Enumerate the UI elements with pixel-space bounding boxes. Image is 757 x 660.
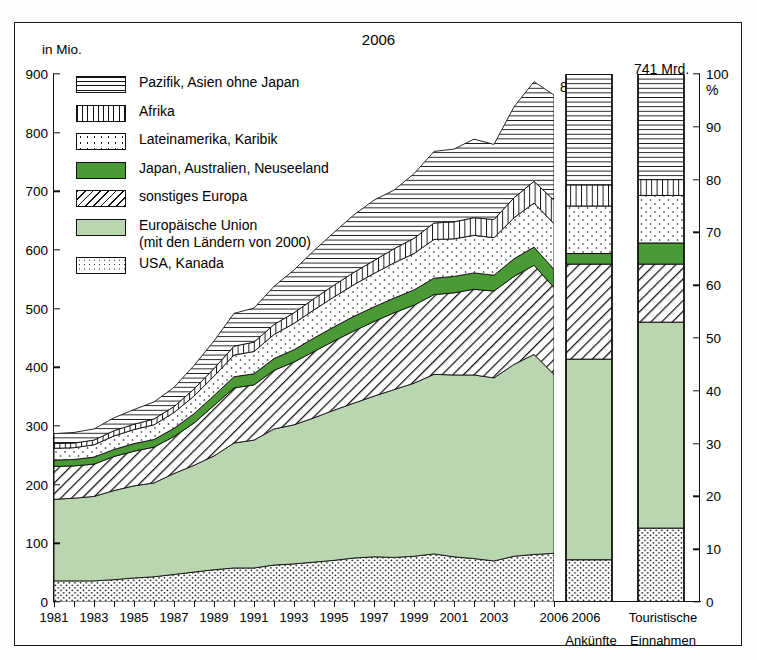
y-tick-mark-400 [53, 367, 60, 368]
x-tick-label-1993: 1993 [280, 610, 309, 625]
y-tick-label-800: 800 [12, 125, 48, 140]
header-year: 2006 [0, 31, 757, 48]
y-tick-mark-300 [53, 425, 60, 426]
y-tick-label-900: 900 [12, 67, 48, 82]
right-tick-label-0: 0 [706, 595, 714, 610]
x-tick-mark-1992 [274, 601, 275, 607]
bar-label-ankuenfte: Ankünfte [565, 633, 616, 648]
y-tick-mark-700 [53, 191, 60, 192]
legend-label-afrika: Afrika [139, 103, 175, 120]
y-tick-label-500: 500 [12, 301, 48, 316]
bar-einnahmen-segment-usa-kanada [638, 528, 684, 602]
right-tick-mark-30 [693, 443, 700, 444]
x-tick-label-2001: 2001 [440, 610, 469, 625]
legend-item-japan[interactable]: Japan, Australien, Neuseeland [76, 160, 406, 182]
right-tick-mark-20 [693, 496, 700, 497]
right-tick-label-20: 20 [706, 489, 721, 504]
x-tick-mark-1999 [414, 601, 415, 607]
legend-item-lateinamerika[interactable]: Lateinamerika, Karibik [76, 131, 406, 153]
x-tick-label-1999: 1999 [400, 610, 429, 625]
bar-einnahmen-segment-europ-ische-union [638, 322, 684, 528]
x-tick-mark-1991 [254, 601, 255, 607]
legend-item-europaeische-union[interactable]: Europäische Union (mit den Ländern von 2… [76, 217, 406, 251]
right-tick-mark-0 [693, 601, 700, 602]
x-tick-label-1985: 1985 [120, 610, 149, 625]
legend-swatch-lateinamerika-icon [76, 133, 126, 150]
x-tick-mark-2004 [514, 601, 515, 607]
x-tick-label-1987: 1987 [160, 610, 189, 625]
bar-ank-nfte-segment-europ-ische-union [566, 359, 612, 560]
y-tick-label-100: 100 [12, 536, 48, 551]
legend-label-sonstiges-europa: sonstiges Europa [139, 188, 247, 205]
chart-page: in Mio. 2006 864 Mio. 741 Mrd. US-$ % [0, 0, 757, 660]
x-tick-label-1981: 1981 [40, 610, 69, 625]
x-tick-mark-1993 [294, 601, 295, 607]
bar-einnahmen-segment-afrika [638, 180, 684, 196]
bar-einnahmen-segment-pazifik-asien-ohne-japan [638, 74, 684, 180]
x-tick-mark-1997 [374, 601, 375, 607]
bar-einnahmen-segment-japan-australien-neuseeland [638, 243, 684, 264]
legend-item-afrika[interactable]: Afrika [76, 103, 406, 125]
percent-bars [554, 74, 704, 602]
y-tick-mark-600 [53, 249, 60, 250]
legend-swatch-pazifik-icon [76, 76, 126, 93]
x-tick-mark-1995 [334, 601, 335, 607]
x-tick-mark-2002 [474, 601, 475, 607]
bar-ank-nfte-segment-lateinamerika-karibik [566, 206, 612, 254]
x-tick-mark-1996 [354, 601, 355, 607]
right-tick-label-30: 30 [706, 436, 721, 451]
legend-swatch-sonstiges-europa-icon [76, 190, 126, 207]
bar-einnahmen-segment-sonstiges-europa [638, 264, 684, 322]
y-tick-label-700: 700 [12, 184, 48, 199]
bar-ank-nfte-segment-japan-australien-neuseeland [566, 254, 612, 265]
right-tick-mark-10 [693, 548, 700, 549]
legend-swatch-japan-icon [76, 162, 126, 179]
legend-label-lateinamerika: Lateinamerika, Karibik [139, 131, 278, 148]
x-tick-mark-1988 [194, 601, 195, 607]
legend-item-usa-kanada[interactable]: USA, Kanada [76, 255, 406, 277]
y-tick-mark-900 [53, 73, 60, 74]
x-tick-mark-1981 [54, 601, 55, 607]
y-tick-mark-100 [53, 543, 60, 544]
x-tick-mark-1987 [174, 601, 175, 607]
x-tick-label-1991: 1991 [240, 610, 269, 625]
right-tick-mark-60 [693, 284, 700, 285]
right-tick-mark-50 [693, 337, 700, 338]
legend-swatch-usa-kanada-icon [76, 257, 126, 274]
bar-ank-nfte-segment-usa-kanada [566, 560, 612, 602]
x-tick-mark-1985 [134, 601, 135, 607]
bar-ank-nfte-segment-afrika [566, 185, 612, 206]
bar-label-einnahmen: Einnahmen [630, 633, 696, 648]
y-tick-label-0: 0 [12, 595, 48, 610]
x-tick-mark-1989 [214, 601, 215, 607]
bar-ank-nfte-segment-pazifik-asien-ohne-japan [566, 74, 612, 185]
x-tick-label-1989: 1989 [200, 610, 229, 625]
right-tick-mark-70 [693, 232, 700, 233]
y-tick-label-300: 300 [12, 419, 48, 434]
bar-ank-nfte-segment-sonstiges-europa [566, 264, 612, 359]
x-tick-mark-1994 [314, 601, 315, 607]
y-tick-label-600: 600 [12, 243, 48, 258]
legend-label-usa-kanada: USA, Kanada [139, 255, 224, 272]
right-tick-label-100: 100 [706, 67, 729, 82]
legend-label-europaeische-union: Europäische Union [139, 217, 257, 233]
legend-swatch-afrika-icon [76, 105, 126, 122]
right-tick-label-40: 40 [706, 383, 721, 398]
x-label-2006: 2006 [572, 610, 601, 625]
y-tick-mark-200 [53, 484, 60, 485]
y-axis-labels [12, 74, 54, 602]
right-tick-mark-80 [693, 179, 700, 180]
right-tick-label-10: 10 [706, 542, 721, 557]
right-axis-unit-label: % [706, 82, 718, 98]
y-tick-mark-800 [53, 132, 60, 133]
x-tick-label-2006: 2006 [540, 610, 569, 625]
x-tick-mark-2005 [534, 601, 535, 607]
x-tick-mark-1990 [234, 601, 235, 607]
x-tick-mark-2003 [494, 601, 495, 607]
right-tick-mark-100 [693, 73, 700, 74]
x-tick-mark-2001 [454, 601, 455, 607]
bar-einnahmen-segment-lateinamerika-karibik [638, 195, 684, 243]
legend-item-sonstiges-europa[interactable]: sonstiges Europa [76, 188, 406, 210]
legend-item-pazifik[interactable]: Pazifik, Asien ohne Japan [76, 74, 406, 96]
y-tick-label-400: 400 [12, 360, 48, 375]
